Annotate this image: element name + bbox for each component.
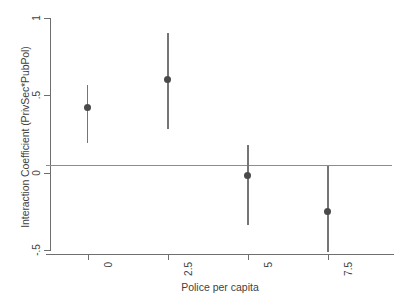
- y-axis-tick-label: 1: [31, 3, 43, 33]
- x-axis-tick-label: 0: [103, 262, 115, 292]
- x-axis-tick-label: 5: [263, 262, 275, 292]
- y-axis-tick-label: -.5: [31, 235, 43, 265]
- data-point-marker: [324, 208, 331, 215]
- confidence-interval-bar: [87, 85, 89, 144]
- data-point-marker: [164, 76, 171, 83]
- data-point-marker: [84, 104, 91, 111]
- x-axis-tick: [248, 254, 249, 260]
- y-axis-tick: [44, 250, 50, 251]
- y-axis-tick: [44, 18, 50, 19]
- coefficient-plot-figure: Interaction Coefficient (PrivSec*PubPol)…: [0, 0, 405, 304]
- confidence-interval-bar: [247, 145, 249, 225]
- x-axis-tick: [168, 254, 169, 260]
- y-axis-tick: [44, 95, 50, 96]
- x-axis-tick-label: 7.5: [343, 262, 355, 292]
- y-axis-tick: [44, 173, 50, 174]
- y-axis-tick-label: 0: [31, 158, 43, 188]
- data-point-marker: [244, 172, 251, 179]
- y-axis-tick-label: .5: [31, 80, 43, 110]
- x-axis-tick: [328, 254, 329, 260]
- x-axis-tick-label: 2.5: [183, 262, 195, 292]
- plot-area: 1.50-.502.557.5: [0, 0, 405, 304]
- x-axis-tick: [88, 254, 89, 260]
